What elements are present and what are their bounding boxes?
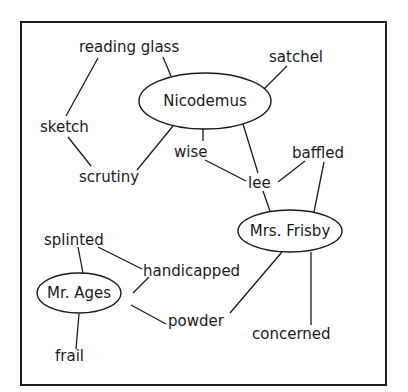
character-label: Nicodemus — [163, 92, 247, 110]
edge-lee-mrs-frisby — [263, 191, 270, 211]
word-baffled: baffled — [292, 144, 344, 162]
word-lee: lee — [248, 174, 271, 192]
word-scrutiny: scrutiny — [79, 168, 139, 186]
edge-wise-lee — [205, 160, 246, 181]
character-node-mr-ages: Mr. Ages — [37, 273, 121, 313]
word-sketch: sketch — [40, 118, 89, 136]
word-reading-glass: reading glass — [79, 38, 179, 56]
word-frail: frail — [55, 347, 84, 365]
character-label: Mrs. Frisby — [250, 222, 331, 240]
edge-splinted-mr-ages — [78, 247, 83, 273]
edge-splinted-handicapped — [98, 247, 142, 269]
edge-reading-glass-sketch — [66, 58, 98, 116]
character-node-nicodemus: Nicodemus — [139, 73, 271, 129]
edge-mr-ages-frail — [76, 314, 79, 349]
edge-mr-ages-powder — [131, 305, 166, 324]
word-wise: wise — [174, 143, 207, 161]
edge-scrutiny-nicodemus — [137, 126, 173, 170]
edge-baffled-mrs-frisby — [314, 162, 324, 212]
word-splinted: splinted — [44, 231, 104, 249]
edge-reading-glass-nicodemus — [163, 57, 171, 76]
word-powder: powder — [168, 312, 225, 330]
character-node-mrs-frisby: Mrs. Frisby — [238, 210, 342, 252]
edge-lee-baffled — [278, 161, 305, 182]
edge-sketch-scrutiny — [68, 137, 91, 166]
edge-nicodemus-lee — [243, 124, 258, 173]
word-satchel: satchel — [269, 48, 323, 66]
edge-satchel-nicodemus — [264, 66, 287, 89]
word-handicapped: handicapped — [143, 262, 240, 280]
word-concerned: concerned — [252, 325, 331, 343]
character-word-web: NicodemusMrs. FrisbyMr. Ages reading gla… — [0, 0, 408, 392]
character-label: Mr. Ages — [47, 284, 111, 302]
